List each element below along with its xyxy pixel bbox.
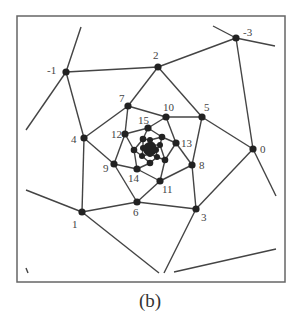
graph-node: [147, 160, 154, 167]
graph-edge: [192, 165, 196, 209]
graph-node: [133, 198, 140, 205]
graph-edge: [137, 169, 160, 181]
graph-edge: [128, 67, 158, 106]
node-label: 9: [103, 162, 109, 174]
node-label: 2: [153, 49, 159, 61]
graph-node: [78, 208, 85, 215]
graph-node: [131, 147, 138, 154]
node-label: 11: [162, 183, 173, 195]
graph-edge: [66, 67, 158, 72]
node-label: 8: [199, 159, 205, 171]
graph-node: [188, 161, 195, 168]
open-edge: [66, 27, 81, 72]
open-edge: [26, 72, 66, 130]
spiral-graph-figure: -3-10123456789101112131415 (b): [0, 0, 300, 333]
graph-edge: [236, 38, 253, 149]
graph-node: [139, 153, 145, 159]
graph-edge: [192, 117, 202, 165]
graph-edge: [137, 181, 160, 202]
graph-edge: [158, 38, 236, 67]
graph-node: [162, 113, 169, 120]
graph-node: [249, 145, 256, 152]
node-label: 6: [133, 206, 139, 218]
node-label: 14: [128, 172, 140, 184]
node-label: 0: [260, 143, 266, 155]
graph-nodes: [62, 34, 256, 215]
open-edge: [26, 268, 28, 273]
graph-edge: [196, 149, 253, 209]
graph-node: [140, 136, 147, 143]
graph-node: [154, 154, 160, 160]
node-label: 15: [138, 114, 150, 126]
graph-node: [110, 160, 117, 167]
graph-edge: [66, 72, 84, 138]
open-edge: [164, 209, 196, 273]
node-label: 12: [111, 128, 122, 140]
node-labels: -3-10123456789101112131415: [47, 26, 266, 230]
open-edge: [253, 149, 276, 196]
node-label: 10: [163, 101, 175, 113]
graph-edge: [160, 165, 192, 181]
graph-node: [80, 134, 87, 141]
graph-node: [162, 157, 169, 164]
node-label: 3: [201, 211, 207, 223]
graph-edge: [82, 202, 137, 212]
graph-node: [192, 205, 199, 212]
graph-edge: [84, 138, 114, 164]
graph-edge: [82, 138, 84, 212]
node-label: 13: [181, 137, 193, 149]
open-edge: [213, 26, 236, 38]
open-edge: [174, 249, 276, 272]
graph-node: [124, 102, 131, 109]
graph-edge: [202, 117, 253, 149]
open-edge: [82, 212, 159, 273]
graph-node: [198, 113, 205, 120]
node-label: -3: [243, 26, 253, 38]
node-label: 5: [204, 101, 210, 113]
graph-node: [159, 134, 166, 141]
graph-node: [172, 139, 179, 146]
graph-node: [121, 130, 128, 137]
node-label: 4: [71, 133, 77, 145]
open-edge: [236, 38, 275, 46]
graph-node: [62, 68, 69, 75]
figure-caption: (b): [0, 290, 300, 312]
open-edge: [26, 190, 82, 212]
spiral-graph-diagram: -3-10123456789101112131415: [0, 0, 300, 333]
graph-node: [232, 34, 239, 41]
center-cluster: [143, 142, 157, 156]
graph-node: [154, 63, 161, 70]
node-label: 1: [72, 218, 78, 230]
node-label: -1: [47, 64, 56, 76]
graph-edge: [125, 106, 128, 134]
graph-node: [157, 142, 163, 148]
node-label: 7: [119, 92, 125, 104]
graph-edge: [137, 202, 196, 209]
